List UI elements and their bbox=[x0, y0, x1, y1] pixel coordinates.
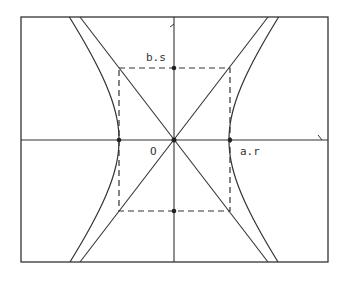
label-top-point: b.s bbox=[146, 51, 166, 64]
point-bottom-co-vertex bbox=[172, 209, 177, 214]
point-origin bbox=[172, 138, 177, 143]
x-axis-arrow-icon bbox=[318, 135, 322, 140]
point-left-vertex bbox=[117, 138, 122, 143]
label-right-vertex: a.r bbox=[240, 145, 260, 158]
hyperbola-diagram: b.s O a.r bbox=[0, 0, 346, 281]
label-origin: O bbox=[150, 145, 157, 158]
point-top-co-vertex bbox=[172, 66, 177, 71]
point-right-vertex bbox=[228, 138, 233, 143]
y-axis-arrow-icon bbox=[170, 24, 174, 27]
